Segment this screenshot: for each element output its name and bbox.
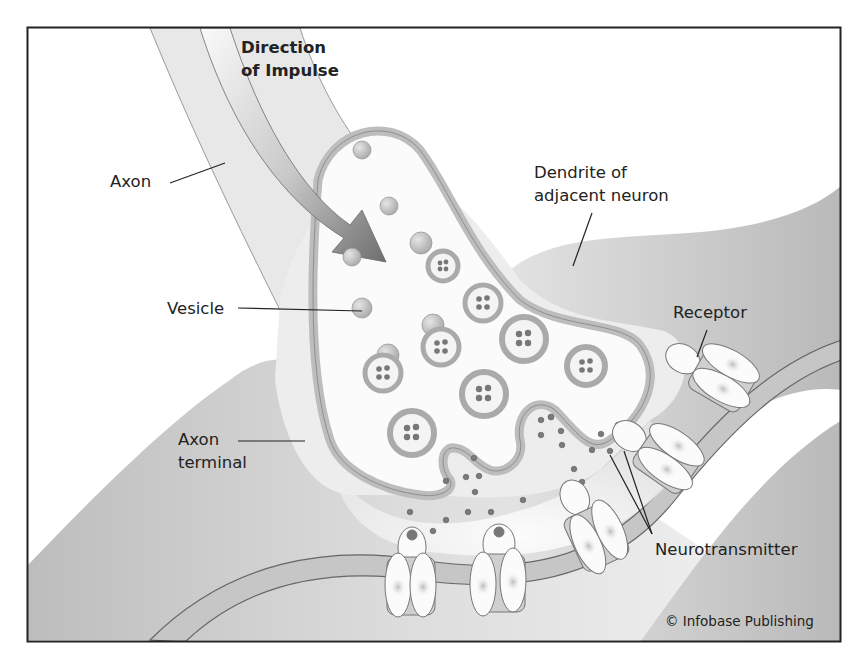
axon-terminal-label-line1: Axon	[178, 428, 247, 451]
axon-terminal-label: Axon terminal	[178, 428, 247, 474]
receptor-label: Receptor	[673, 301, 747, 324]
vesicle-label: Vesicle	[167, 297, 224, 320]
synapse-diagram	[0, 0, 866, 665]
dendrite-label: Dendrite of adjacent neuron	[534, 161, 669, 207]
direction-label-line2: of Impulse	[241, 59, 339, 82]
dendrite-label-line1: Dendrite of	[534, 161, 669, 184]
copyright-credit: © Infobase Publishing	[665, 613, 814, 629]
axon-terminal-label-line2: terminal	[178, 451, 247, 474]
direction-label: Direction of Impulse	[241, 36, 339, 82]
axon-label: Axon	[110, 170, 151, 193]
direction-label-line1: Direction	[241, 36, 339, 59]
neurotransmitter-label: Neurotransmitter	[655, 538, 797, 561]
dendrite-label-line2: adjacent neuron	[534, 184, 669, 207]
